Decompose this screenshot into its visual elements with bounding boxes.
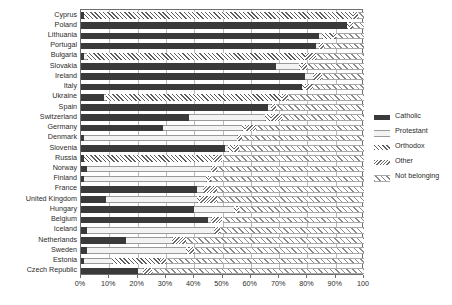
stacked-bar[interactable] — [81, 258, 362, 265]
stacked-bar[interactable] — [81, 94, 362, 101]
legend-item[interactable]: Other — [374, 155, 450, 170]
bar-segment-none[interactable] — [217, 186, 364, 193]
bar-segment-none[interactable] — [324, 43, 364, 50]
bar-segment-none[interactable] — [223, 217, 365, 224]
bar-segment-none[interactable] — [166, 258, 364, 265]
bar-segment-catholic[interactable] — [81, 268, 138, 275]
bar-segment-catholic[interactable] — [81, 84, 302, 91]
bar-segment-other[interactable] — [203, 186, 217, 193]
bar-segment-other[interactable] — [172, 237, 186, 244]
stacked-bar[interactable] — [81, 196, 362, 203]
bar-segment-none[interactable] — [353, 22, 364, 29]
bar-segment-other[interactable] — [313, 73, 321, 80]
bar-segment-none[interactable] — [313, 84, 364, 91]
bar-segment-protestant[interactable] — [87, 166, 212, 173]
bar-segment-other[interactable] — [214, 155, 222, 162]
bar-segment-none[interactable] — [217, 196, 364, 203]
stacked-bar[interactable] — [81, 43, 362, 50]
stacked-bar[interactable] — [81, 247, 362, 254]
bar-segment-other[interactable] — [271, 114, 282, 121]
stacked-bar[interactable] — [81, 63, 362, 70]
bar-segment-none[interactable] — [336, 33, 364, 40]
bar-segment-orthodox[interactable] — [112, 258, 160, 265]
bar-segment-none[interactable] — [316, 53, 364, 60]
stacked-bar[interactable] — [81, 155, 362, 162]
stacked-bar[interactable] — [81, 206, 362, 213]
bar-segment-other[interactable] — [305, 53, 316, 60]
bar-segment-other[interactable] — [211, 217, 222, 224]
bar-segment-protestant[interactable] — [87, 247, 186, 254]
bar-segment-protestant[interactable] — [87, 227, 214, 234]
stacked-bar[interactable] — [81, 268, 362, 275]
bar-segment-catholic[interactable] — [81, 94, 104, 101]
bar-segment-other[interactable] — [143, 268, 151, 275]
stacked-bar[interactable] — [81, 186, 362, 193]
bar-segment-catholic[interactable] — [81, 217, 208, 224]
bar-segment-none[interactable] — [242, 135, 364, 142]
bar-segment-none[interactable] — [194, 247, 364, 254]
stacked-bar[interactable] — [81, 125, 362, 132]
bar-segment-protestant[interactable] — [276, 63, 299, 70]
bar-segment-catholic[interactable] — [81, 43, 316, 50]
bar-segment-protestant[interactable] — [305, 73, 313, 80]
bar-segment-catholic[interactable] — [81, 237, 126, 244]
bar-segment-catholic[interactable] — [81, 33, 319, 40]
bar-segment-none[interactable] — [322, 73, 364, 80]
stacked-bar[interactable] — [81, 176, 362, 183]
stacked-bar[interactable] — [81, 135, 362, 142]
bar-segment-none[interactable] — [223, 155, 365, 162]
bar-segment-protestant[interactable] — [126, 237, 171, 244]
bar-segment-protestant[interactable] — [106, 196, 197, 203]
bar-segment-catholic[interactable] — [81, 206, 194, 213]
bar-segment-orthodox[interactable] — [106, 94, 281, 101]
bar-segment-catholic[interactable] — [81, 145, 225, 152]
bar-segment-none[interactable] — [220, 227, 364, 234]
bar-segment-orthodox[interactable] — [84, 12, 353, 19]
bar-segment-none[interactable] — [211, 176, 364, 183]
stacked-bar[interactable] — [81, 73, 362, 80]
bar-segment-none[interactable] — [358, 12, 364, 19]
stacked-bar[interactable] — [81, 84, 362, 91]
bar-segment-catholic[interactable] — [81, 125, 163, 132]
bar-segment-protestant[interactable] — [194, 206, 234, 213]
bar-segment-none[interactable] — [307, 63, 364, 70]
bar-segment-protestant[interactable] — [84, 176, 206, 183]
stacked-bar[interactable] — [81, 53, 362, 60]
stacked-bar[interactable] — [81, 22, 362, 29]
bar-segment-none[interactable] — [276, 104, 364, 111]
bar-segment-other[interactable] — [200, 196, 217, 203]
bar-segment-none[interactable] — [288, 94, 364, 101]
bar-segment-catholic[interactable] — [81, 114, 189, 121]
stacked-bar[interactable] — [81, 12, 362, 19]
stacked-bar[interactable] — [81, 33, 362, 40]
bar-segment-orthodox[interactable] — [322, 33, 333, 40]
bar-segment-none[interactable] — [239, 206, 364, 213]
bar-segment-other[interactable] — [305, 84, 313, 91]
bar-segment-other[interactable] — [245, 125, 256, 132]
bar-segment-catholic[interactable] — [81, 73, 305, 80]
bar-segment-none[interactable] — [152, 268, 364, 275]
bar-segment-none[interactable] — [217, 166, 364, 173]
bar-segment-none[interactable] — [186, 237, 364, 244]
stacked-bar[interactable] — [81, 217, 362, 224]
bar-segment-catholic[interactable] — [81, 186, 197, 193]
stacked-bar[interactable] — [81, 166, 362, 173]
stacked-bar[interactable] — [81, 227, 362, 234]
stacked-bar[interactable] — [81, 145, 362, 152]
stacked-bar[interactable] — [81, 237, 362, 244]
bar-segment-none[interactable] — [282, 114, 364, 121]
bar-segment-none[interactable] — [256, 125, 364, 132]
legend-item[interactable]: Protestant — [374, 125, 450, 140]
stacked-bar[interactable] — [81, 114, 362, 121]
bar-segment-orthodox[interactable] — [84, 155, 214, 162]
bar-segment-protestant[interactable] — [163, 125, 242, 132]
bar-segment-none[interactable] — [239, 145, 364, 152]
bar-segment-protestant[interactable] — [189, 114, 265, 121]
legend-item[interactable]: Catholic — [374, 110, 450, 125]
bar-segment-orthodox[interactable] — [87, 53, 305, 60]
legend-item[interactable]: Orthodox — [374, 140, 450, 155]
legend-item[interactable]: Not belonging — [374, 170, 450, 185]
bar-segment-catholic[interactable] — [81, 104, 268, 111]
bar-segment-catholic[interactable] — [81, 22, 347, 29]
bar-segment-catholic[interactable] — [81, 196, 106, 203]
